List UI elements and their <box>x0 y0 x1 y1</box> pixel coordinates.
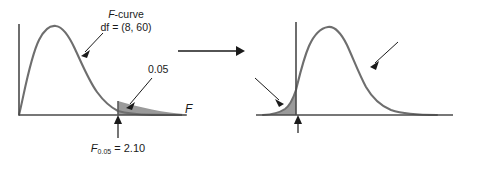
transition-arrow-layer <box>0 0 482 169</box>
f-distribution-figure: F-curve df = (8, 60) 0.05 F F0.05 = 2.10 <box>0 0 482 169</box>
transition-arrow-head <box>236 46 245 56</box>
